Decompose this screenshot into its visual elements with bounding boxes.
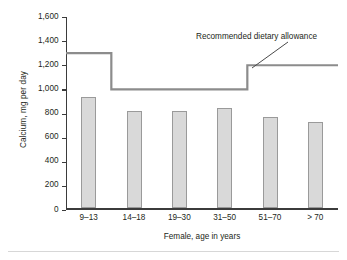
x-axis-tick-label: > 70 bbox=[285, 213, 345, 222]
y-axis-tick-label: 1,400 bbox=[38, 36, 59, 45]
x-axis-title: Female, age in years bbox=[66, 232, 338, 241]
y-axis-tick-label: 200 bbox=[45, 180, 59, 189]
y-axis-tick-label: 400 bbox=[45, 156, 59, 165]
footer-divider bbox=[8, 251, 339, 252]
y-axis-tick-label: 600 bbox=[45, 132, 59, 141]
rda-annotation-label: Recommended dietary allowance bbox=[196, 32, 317, 41]
y-axis-tick: 0 bbox=[62, 210, 67, 211]
y-axis-tick-label: 800 bbox=[45, 108, 59, 117]
y-axis-tick-label: 1,000 bbox=[38, 84, 59, 93]
y-axis-tick-label: 1,600 bbox=[38, 12, 59, 21]
y-axis-title: Calcium, mg per day bbox=[19, 40, 28, 180]
calcium-intake-chart: Calcium, mg per day 02004006008001,0001,… bbox=[0, 0, 347, 260]
rda-annotation-leader-line bbox=[250, 42, 290, 70]
y-axis-tick-label: 1,200 bbox=[38, 60, 59, 69]
plot-area: 02004006008001,0001,2001,4001,600 9–1314… bbox=[66, 17, 338, 210]
rda-step-line bbox=[66, 17, 338, 210]
